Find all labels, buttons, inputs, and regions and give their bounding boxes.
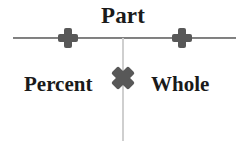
plus-marker-right-vertical-bar	[178, 28, 186, 48]
horizontal-divider-line	[13, 37, 236, 39]
plus-marker-left-icon	[58, 28, 78, 48]
label-whole: Whole	[151, 74, 209, 95]
cross-marker-center-icon	[106, 61, 140, 95]
label-percent: Percent	[24, 74, 92, 95]
plus-marker-right-icon	[172, 28, 192, 48]
diagram-canvas: Part Percent Whole	[0, 0, 246, 147]
label-part: Part	[0, 4, 246, 27]
plus-marker-left-vertical-bar	[64, 28, 72, 48]
label-part-text: Part	[101, 3, 145, 28]
